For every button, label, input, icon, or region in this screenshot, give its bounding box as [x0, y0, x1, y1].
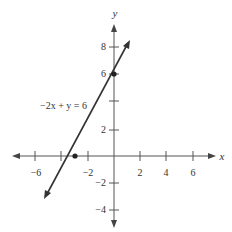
line-arrow-down: [44, 190, 51, 199]
y-tick-label: −4: [95, 204, 106, 215]
x-axis-label: x: [219, 150, 225, 162]
line-arrow-up: [123, 40, 130, 49]
equation-label: −2x + y = 6: [40, 100, 87, 111]
x-tick-label: 2: [138, 167, 143, 178]
y-tick-label: 6: [101, 68, 106, 79]
y-tick-label: −2: [95, 177, 106, 188]
x-intercept-point: [72, 153, 77, 158]
x-tick-label: −2: [83, 167, 94, 178]
y-axis-label: y: [112, 7, 118, 19]
y-tick-label: 2: [101, 124, 106, 135]
y-axis-arrow-down: [111, 220, 117, 228]
y-intercept-point: [111, 71, 116, 76]
x-tick-label: 6: [191, 167, 196, 178]
x-tick-label: 4: [164, 167, 169, 178]
y-tick-label: 8: [101, 41, 106, 52]
x-axis-arrow-right: [208, 153, 216, 159]
y-axis-arrow-up: [111, 24, 117, 32]
x-tick-label: −6: [31, 167, 42, 178]
coordinate-graph: y x −2x + y = 6 −6 −2 2 4 6 8 6 2 −2 −4: [0, 0, 232, 232]
x-axis-arrow-left: [12, 153, 20, 159]
